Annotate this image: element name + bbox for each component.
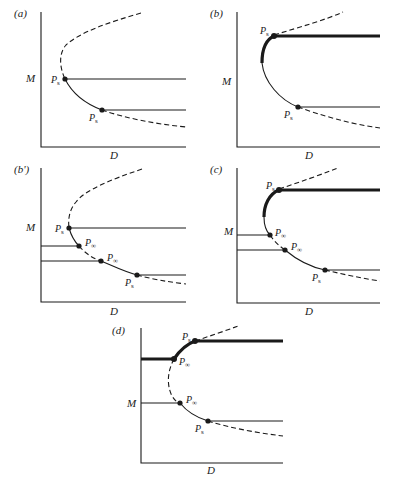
panel-label: (a) [14,7,27,20]
point-marker [177,400,182,405]
point-marker [267,232,272,237]
unstable-branch-upper [274,12,343,35]
point-marker [171,356,177,362]
point-label: Ps [181,331,191,344]
unstable-branch-upper [61,13,141,79]
stable-branch [69,228,79,246]
point-label: P∞ [290,241,302,254]
panel-b: (b) M D Ps Ps [210,7,380,161]
stable-branch [65,79,102,110]
stable-branch [264,217,270,235]
panel-label: (b') [14,163,30,176]
y-axis-label: M [221,75,232,87]
point-label: P∞ [185,394,197,407]
y-axis-label: M [25,72,36,84]
stable-branch [285,250,325,270]
point-marker [99,107,104,112]
panel-c: (c) M D Ps P∞ P∞ Ps [210,163,380,317]
panel-d: (d) M D Ps P∞ P∞ Ps [112,324,283,476]
point-label: Ps [88,112,98,125]
point-label: Ps [283,109,293,122]
unstable-branch-lower [137,275,186,284]
point-marker [76,243,81,248]
point-label: Ps [311,272,321,285]
unstable-branch-middle [79,246,101,261]
point-label: Ps [194,423,204,436]
panel-b-prime: (b') M D Ps P∞ P∞ Ps [14,163,186,317]
unstable-branch-upper [69,169,142,228]
point-label: P∞ [106,252,118,265]
stable-branch-thick [262,36,274,63]
unstable-branch-upper [195,326,238,341]
point-marker [62,76,67,81]
point-label: P∞ [84,237,96,250]
stable-branch [101,261,137,275]
point-marker [295,104,300,109]
point-label: Ps [124,277,134,290]
axes [237,12,380,147]
point-marker [66,225,71,230]
point-marker [271,33,277,39]
point-marker [282,247,287,252]
stable-branch-thick [264,190,279,217]
unstable-branch-lower [102,110,186,127]
point-marker [98,258,103,263]
y-axis-label: M [25,221,36,233]
point-marker [276,187,282,193]
point-label: Ps [265,180,275,193]
y-axis-label: M [126,397,137,409]
x-axis-label: D [109,305,118,317]
point-label: Ps [50,74,60,87]
unstable-branch-lower [298,107,380,128]
panel-label: (b) [210,7,223,20]
point-marker [322,267,327,272]
panel-label: (c) [210,163,223,176]
x-axis-label: D [206,464,215,476]
y-axis-label: M [223,225,234,237]
point-marker [205,418,210,423]
unstable-branch-lower [208,421,283,436]
point-marker [134,272,139,277]
x-axis-label: D [304,149,313,161]
x-axis-label: D [304,305,313,317]
axes [141,328,283,463]
point-label: P∞ [178,356,190,369]
figure-canvas: (a) M D Ps Ps (b) M D Ps Ps (b') [0,0,393,479]
panel-a: (a) M D Ps Ps [14,7,186,161]
point-label: Ps [54,223,64,236]
x-axis-label: D [109,149,118,161]
stable-branch [262,63,298,107]
unstable-branch-lower [325,270,380,281]
point-marker [192,338,198,344]
panel-label: (d) [112,324,125,337]
unstable-branch-upper [279,168,338,189]
point-label: Ps [259,25,269,38]
point-label: P∞ [274,227,286,240]
